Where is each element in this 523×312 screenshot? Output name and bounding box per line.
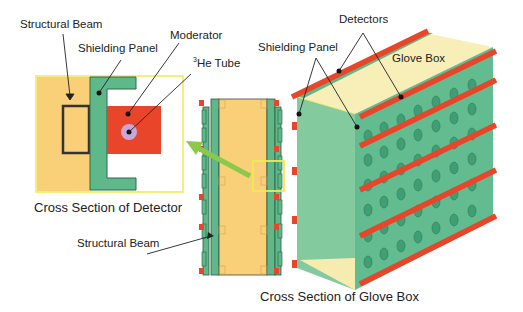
glove-box-wall-section [199, 99, 284, 275]
label-shielding-panel-right: Shielding Panel [258, 41, 338, 53]
caption-detector: Cross Section of Detector [34, 200, 182, 215]
label-structural-beam-top: Structural Beam [20, 18, 102, 30]
label-detectors: Detectors [339, 13, 388, 25]
detector-cross-section [36, 75, 184, 192]
label-shielding-panel-left: Shielding Panel [78, 42, 158, 54]
label-moderator: Moderator [170, 29, 222, 41]
label-glove-box: Glove Box [392, 52, 445, 64]
caption-glove-box: Cross Section of Glove Box [260, 289, 419, 304]
label-structural-beam-bottom: Structural Beam [77, 237, 159, 249]
he-tube-text: He Tube [197, 57, 240, 69]
label-he-tube: 3He Tube [193, 56, 240, 69]
